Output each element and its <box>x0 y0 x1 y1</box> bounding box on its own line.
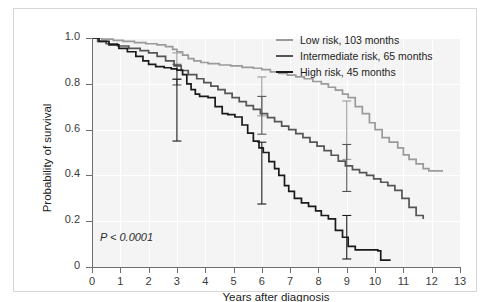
y-tick <box>86 130 92 131</box>
y-axis-line <box>92 38 93 268</box>
x-tick-label: 13 <box>447 275 473 287</box>
figure-frame: 01234567891011121300.20.40.60.81.0 Years… <box>13 8 477 292</box>
x-tick-label: 3 <box>164 275 190 287</box>
legend-color-swatch <box>276 39 293 41</box>
legend-item: Low risk, 103 months <box>276 32 432 48</box>
x-tick-label: 8 <box>305 275 331 287</box>
x-tick-label: 4 <box>192 275 218 287</box>
error-bar <box>257 142 266 204</box>
figure-container: 01234567891011121300.20.40.60.81.0 Years… <box>0 0 490 302</box>
error-bar <box>172 79 181 141</box>
legend-color-swatch <box>276 71 293 73</box>
legend-color-swatch <box>276 55 293 57</box>
x-tick-label: 0 <box>79 275 105 287</box>
x-tick <box>432 268 433 273</box>
legend-label: Low risk, 103 months <box>300 34 399 46</box>
x-tick <box>318 268 319 273</box>
x-tick <box>403 268 404 273</box>
gridline-vertical <box>460 38 461 267</box>
y-tick <box>86 84 92 85</box>
y-tick <box>86 175 92 176</box>
y-tick-label: 0 <box>38 259 80 271</box>
legend-label: Intermediate risk, 65 months <box>300 50 432 62</box>
x-tick <box>347 268 348 273</box>
x-tick-label: 7 <box>277 275 303 287</box>
y-axis-title: Probability of survival <box>41 68 53 248</box>
legend: Low risk, 103 monthsIntermediate risk, 6… <box>276 32 432 80</box>
error-bar <box>257 96 266 134</box>
x-tick <box>92 268 93 273</box>
legend-item: High risk, 45 months <box>276 64 432 80</box>
x-tick <box>290 268 291 273</box>
x-tick <box>375 268 376 273</box>
x-tick <box>120 268 121 273</box>
x-tick <box>460 268 461 273</box>
x-tick-label: 5 <box>221 275 247 287</box>
x-tick <box>205 268 206 273</box>
y-tick-label: 1.0 <box>38 30 80 42</box>
legend-label: High risk, 45 months <box>300 66 396 78</box>
legend-item: Intermediate risk, 65 months <box>276 48 432 64</box>
y-tick <box>86 267 92 268</box>
x-tick <box>234 268 235 273</box>
y-tick <box>86 38 92 39</box>
x-tick-label: 12 <box>419 275 445 287</box>
x-tick-label: 10 <box>362 275 388 287</box>
x-tick-label: 9 <box>334 275 360 287</box>
x-tick <box>149 268 150 273</box>
x-tick-label: 2 <box>136 275 162 287</box>
error-bar <box>342 144 351 191</box>
x-axis-title: Years after diagnosis <box>92 291 460 302</box>
y-tick <box>86 221 92 222</box>
x-tick-label: 11 <box>390 275 416 287</box>
x-tick-label: 1 <box>107 275 133 287</box>
x-tick-label: 6 <box>249 275 275 287</box>
x-axis-line <box>92 267 461 268</box>
x-tick <box>177 268 178 273</box>
x-tick <box>262 268 263 273</box>
p-value-annotation: P < 0.0001 <box>100 231 153 243</box>
